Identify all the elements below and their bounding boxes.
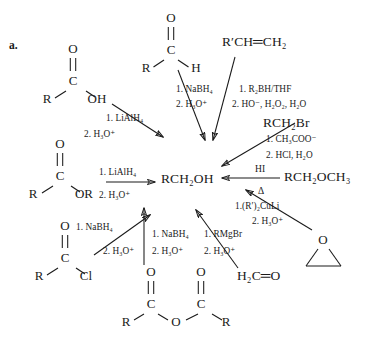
reagent-bromide-step1: 1. CH₃COO⁻ [266,134,317,144]
reagent-acid-chloride-step1: 1. NaBH₄ [76,222,113,232]
alkene-formula: R′CH═CH₂ [222,35,287,50]
aldehyde-hydrogen: H [189,60,203,76]
carboxylic-acid-carbonyl-carbon: C [66,73,80,89]
anhydride-right-carbonyl-oxygen: O [194,264,208,280]
aldehyde-carbonyl-carbon: C [164,42,178,58]
methyl-ether-formula: RCH₂OCH₃ [284,170,350,185]
anhydride-bridge-oxygen: O [169,314,183,330]
carboxylic-acid-carbonyl-oxygen: O [66,41,80,57]
aldehyde-r-group: R [139,60,153,76]
condition-ether-reagent: HI [255,164,265,174]
ester-alkoxy-group: OR [70,186,98,202]
reagent-alkene-step1: 1. R₂BH/THF [239,84,291,94]
reagent-aldehyde-step1: 1. NaBH₄ [176,84,213,94]
reagent-aldehyde-step2: 2. H₃O⁺ [176,99,207,109]
anhydride-right-r-group: R [219,314,233,330]
reagent-ester-step1: 1. LiAlH₄ [99,167,136,177]
acid-chloride-carbonyl-carbon: C [58,250,72,266]
reaction-scheme-diagram: a. O C R OH O C R H R′CH═CH₂ O C R OR O … [0,0,374,341]
reagent-ester-step2: 2. H₃O⁺ [99,190,130,200]
anhydride-left-carbonyl-carbon: C [144,296,158,312]
reagent-anhydride-step1: 1. NaBH₄ [152,229,189,239]
anhydride-right-carbonyl-carbon: C [194,296,208,312]
epoxide-oxygen: O [316,232,330,248]
reagent-anhydride-step2: 2. H₃O⁺ [152,246,183,256]
acid-chloride-carbonyl-oxygen: O [58,218,72,234]
anhydride-left-r-group: R [119,314,133,330]
ester-carbonyl-carbon: C [53,168,67,184]
carboxylic-acid-hydroxyl-group: OH [84,91,110,107]
reagent-formaldehyde-step2: 2. H₃O⁺ [204,246,235,256]
ester-r-group: R [26,186,40,202]
ester-carbonyl-oxygen: O [53,136,67,152]
reagent-bromide-step2: 2. HCl, H₂O [266,150,313,160]
reagent-formaldehyde-step1: 1. RMgBr [204,229,242,239]
acid-chloride-chlorine: Cl [76,268,96,284]
acid-chloride-r-group: R [32,268,46,284]
reagent-alkene-step2: 2. HO⁻, H₂O₂, H₂O [232,99,306,109]
reagent-acid-step2: 2. H₃O⁺ [84,129,115,139]
reagent-acid-chloride-step2: 2. H₃O⁺ [103,246,134,256]
anhydride-left-carbonyl-oxygen: O [144,264,158,280]
panel-letter-a: a. [9,39,18,51]
formaldehyde-formula: H₂C═O [237,269,280,284]
reagent-epoxide-step1: 1.(R′)₂CuLi [235,201,279,211]
alkyl-bromide-formula: RCH₂Br [263,116,310,131]
reagent-acid-step1: 1. LiAlH₄ [106,113,143,123]
reagent-epoxide-step2: 2. H₃O⁺ [252,216,283,226]
aldehyde-carbonyl-oxygen: O [164,10,178,26]
condition-ether-heat: Δ [258,186,264,196]
epoxide-ring-bonds [306,249,341,266]
carboxylic-acid-r-group: R [40,91,54,107]
central-product-label: RCH₂OH [161,172,214,187]
